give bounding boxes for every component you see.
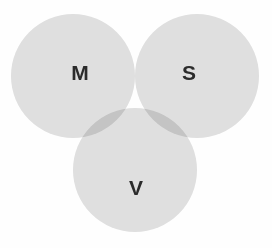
venn-label-v: V [129,177,143,198]
venn-diagram-canvas [0,0,272,248]
venn-diagram-figure: M S V [0,0,272,248]
venn-label-m: M [71,62,89,83]
venn-circle-v [73,108,197,232]
venn-label-s: S [182,62,196,83]
